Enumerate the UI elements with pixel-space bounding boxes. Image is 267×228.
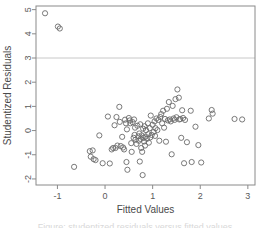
data-point: [107, 161, 112, 166]
y-tick-label: 4: [23, 31, 33, 36]
data-point: [180, 108, 185, 113]
data-point: [188, 108, 193, 113]
data-point: [206, 116, 211, 121]
data-point: [120, 134, 125, 139]
data-point: [100, 161, 105, 166]
data-point: [124, 159, 129, 164]
figure-caption: Figure: studentized residuals versus fit…: [30, 222, 240, 228]
data-point: [42, 11, 47, 16]
x-tick-label: 3: [245, 191, 250, 201]
residual-plot-figure: -10123-2-1012345Fitted ValuesStudentized…: [0, 0, 267, 228]
series-residuals: [42, 11, 244, 178]
data-point: [125, 167, 130, 172]
data-point: [169, 152, 174, 157]
y-axis-title: Studentized Residuals: [2, 46, 13, 146]
data-point: [196, 142, 201, 147]
data-point: [140, 172, 145, 177]
data-point: [175, 87, 180, 92]
x-tick-label: 1: [150, 191, 155, 201]
data-point: [157, 138, 162, 143]
x-axis-title: Fitted Values: [117, 204, 175, 215]
scatter-plot-canvas: -10123-2-1012345Fitted ValuesStudentized…: [0, 0, 267, 228]
data-point: [97, 133, 102, 138]
data-point: [184, 140, 189, 145]
y-tick-label: -2: [23, 175, 33, 183]
data-point: [93, 157, 98, 162]
data-point: [170, 103, 175, 108]
data-point: [137, 159, 142, 164]
y-tick-label: 0: [23, 128, 33, 133]
data-point: [189, 159, 194, 164]
data-point: [181, 161, 186, 166]
data-point: [163, 139, 168, 144]
data-point: [114, 114, 119, 119]
data-point: [173, 97, 178, 102]
x-tick-label: -1: [53, 191, 61, 201]
data-point: [161, 125, 166, 130]
data-point: [210, 111, 215, 116]
x-tick-label: 0: [103, 191, 108, 201]
data-point: [209, 107, 214, 112]
data-point: [176, 95, 181, 100]
data-point: [193, 124, 198, 129]
y-tick-label: 3: [23, 55, 33, 60]
data-point: [124, 127, 129, 132]
data-point: [179, 135, 184, 140]
data-point: [240, 117, 245, 122]
data-point: [117, 119, 122, 124]
data-point: [232, 116, 237, 121]
data-point: [71, 164, 76, 169]
data-point: [199, 160, 204, 165]
figure-caption-text: Figure: studentized residuals versus fit…: [30, 222, 240, 228]
y-tick-label: 2: [23, 80, 33, 85]
x-tick-label: 2: [198, 191, 203, 201]
y-tick-label: -1: [23, 151, 33, 159]
y-tick-label: 5: [23, 7, 33, 12]
data-point: [129, 149, 134, 154]
plot-frame: [36, 6, 255, 185]
data-point: [105, 114, 110, 119]
data-point: [148, 113, 153, 118]
data-point: [117, 104, 122, 109]
data-point: [112, 123, 117, 128]
y-tick-label: 1: [23, 104, 33, 109]
